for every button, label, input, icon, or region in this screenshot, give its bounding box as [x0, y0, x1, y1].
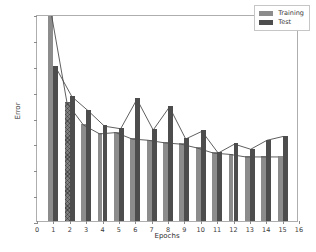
plot-axes: 0.00.10.20.30.40.50.60.70.8 012345678910… — [36, 15, 298, 222]
line-overlay-layer — [37, 16, 297, 221]
x-tick — [119, 221, 120, 224]
legend-swatch-training-icon — [259, 11, 273, 16]
x-tick — [299, 221, 300, 224]
x-tick — [217, 221, 218, 224]
y-tick — [34, 68, 37, 69]
legend-label-test: Test — [278, 18, 291, 27]
x-tick — [250, 221, 251, 224]
x-tick — [135, 221, 136, 224]
line-training — [51, 16, 279, 157]
x-tick — [70, 221, 71, 224]
legend-item-test: Test — [259, 18, 304, 27]
x-tick — [184, 221, 185, 224]
x-tick — [152, 221, 153, 224]
legend-item-training: Training — [259, 9, 304, 18]
y-tick — [34, 42, 37, 43]
x-tick — [37, 221, 38, 224]
y-axis-title: Error — [14, 81, 22, 141]
plot-area — [37, 16, 297, 221]
legend-swatch-test-icon — [259, 20, 273, 25]
x-tick — [168, 221, 169, 224]
y-tick — [34, 120, 37, 121]
x-tick — [283, 221, 284, 224]
x-tick — [266, 221, 267, 224]
legend-label-training: Training — [278, 9, 304, 18]
x-tick — [86, 221, 87, 224]
y-tick — [34, 171, 37, 172]
x-tick — [103, 221, 104, 224]
line-test — [56, 67, 284, 153]
x-tick — [53, 221, 54, 224]
y-tick — [34, 197, 37, 198]
x-axis-title: Epochs — [36, 232, 298, 240]
x-tick — [201, 221, 202, 224]
figure: 0.00.10.20.30.40.50.60.70.8 012345678910… — [0, 0, 316, 252]
y-tick — [34, 145, 37, 146]
x-tick — [234, 221, 235, 224]
y-tick — [34, 94, 37, 95]
chart-legend: Training Test — [254, 5, 310, 31]
y-tick — [34, 16, 37, 17]
